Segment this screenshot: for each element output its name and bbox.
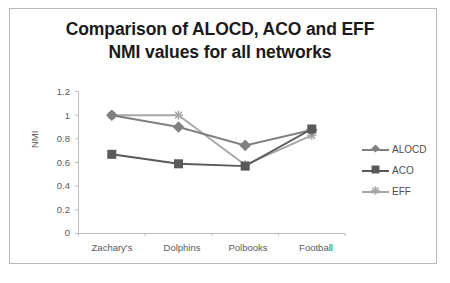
chart-container: Comparison of ALOCD, ACO and EFF NMI val… [0, 0, 450, 283]
legend-item-aco[interactable]: ACO [362, 163, 434, 184]
plot-area: 1.2 1 0.8 0.6 0.4 0.2 0 NMI Zachary's Do… [0, 0, 450, 283]
chart-legend: ALOCD ACO EFF [362, 142, 434, 205]
legend-label-alocd: ALOCD [392, 144, 426, 155]
legend-item-alocd[interactable]: ALOCD [362, 142, 434, 163]
legend-item-eff[interactable]: EFF [362, 184, 434, 205]
legend-label-eff: EFF [392, 186, 411, 197]
star-icon [371, 186, 380, 195]
y-axis-ticks [75, 92, 78, 234]
square-icon [371, 165, 380, 174]
legend-label-aco: ACO [392, 165, 414, 176]
diamond-icon [371, 144, 380, 153]
